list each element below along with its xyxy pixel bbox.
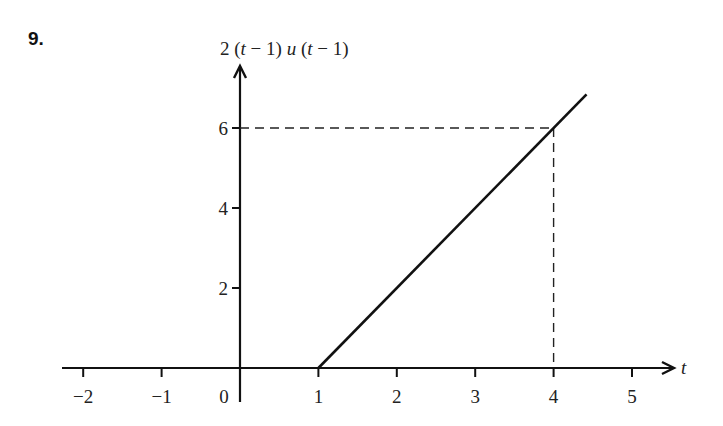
guide-lines bbox=[240, 128, 554, 368]
x-tick-label: 4 bbox=[549, 386, 559, 407]
x-tick-label: −2 bbox=[73, 386, 93, 407]
ticks: −2−1012345246 bbox=[73, 118, 637, 407]
y-tick-label: 4 bbox=[219, 198, 229, 219]
plot-line bbox=[318, 94, 586, 368]
x-axis-label: t bbox=[681, 357, 687, 378]
x-tick-label: 0 bbox=[219, 386, 229, 407]
y-tick-label: 6 bbox=[219, 118, 229, 139]
y-tick-label: 2 bbox=[219, 278, 229, 299]
x-tick-label: −1 bbox=[151, 386, 171, 407]
chart: −2−1012345246 2 (t − 1) u (t − 1) t bbox=[0, 0, 723, 426]
x-tick-label: 5 bbox=[627, 386, 637, 407]
axes bbox=[62, 66, 674, 402]
y-axis-label: 2 (t − 1) u (t − 1) bbox=[220, 38, 349, 60]
x-tick-label: 1 bbox=[314, 386, 324, 407]
x-tick-label: 3 bbox=[470, 386, 480, 407]
x-tick-label: 2 bbox=[392, 386, 402, 407]
